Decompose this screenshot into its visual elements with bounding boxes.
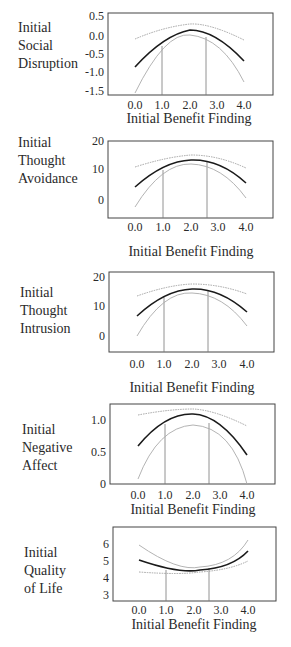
y-tick-label: 20 xyxy=(92,134,104,148)
panel-thought-avoidance: Initial Thought Avoidance 20 10 0 0.0 1.… xyxy=(18,134,273,259)
plot-frame xyxy=(108,141,273,218)
y-tick-label: -0.5 xyxy=(85,47,104,61)
y-tick-label: 0.5 xyxy=(89,9,104,23)
y-tick-label: 0 xyxy=(99,329,105,343)
ylabel-line: Thought xyxy=(20,303,68,318)
panel-social-disruption: Initial Social Disruption 0.5 0.0 -0.5 -… xyxy=(18,9,273,126)
upper-ci-curve xyxy=(137,284,247,296)
upper-ci-curve xyxy=(135,155,246,168)
ylabel-line: Intrusion xyxy=(20,321,71,336)
x-tick-label: 1.0 xyxy=(159,603,174,617)
ylabel-line: Initial xyxy=(24,545,58,560)
x-tick-label: 4.0 xyxy=(240,357,255,371)
x-tick-label: 4.0 xyxy=(240,488,255,502)
x-tick-label: 2.0 xyxy=(185,357,200,371)
x-tick-label: 4.0 xyxy=(237,98,252,112)
y-tick-label: 10 xyxy=(92,162,104,176)
plot-frame xyxy=(110,404,275,484)
ylabel-line: of Life xyxy=(24,581,62,596)
ylabel-line: Disruption xyxy=(18,56,78,71)
x-tick-label: 3.0 xyxy=(211,220,226,234)
y-tick-label: 20 xyxy=(93,270,105,284)
upper-ci-curve xyxy=(135,24,244,40)
x-axis-title: Initial Benefit Finding xyxy=(128,244,253,259)
plot-frame xyxy=(113,527,276,601)
x-tick-label: 1.0 xyxy=(156,220,171,234)
ylabel-line: Initial xyxy=(18,20,52,35)
ylabel-line: Thought xyxy=(18,153,66,168)
estimate-curve xyxy=(138,414,247,455)
x-tick-label: 2.0 xyxy=(186,488,201,502)
x-axis-title: Initial Benefit Finding xyxy=(126,111,251,126)
y-tick-label: 5 xyxy=(103,554,109,568)
x-axis-title: Initial Benefit Finding xyxy=(131,617,256,632)
panel-thought-intrusion: Initial Thought Intrusion 20 10 0 0.0 1.… xyxy=(20,270,274,395)
ylabel-line: Negative xyxy=(22,440,73,455)
panel-negative-affect: Initial Negative Affect 1.0 0.5 0 0.0 1.… xyxy=(22,404,275,517)
ylabel-line: Affect xyxy=(22,458,58,473)
x-tick-label: 4.0 xyxy=(241,603,256,617)
plot-frame xyxy=(108,13,273,95)
x-tick-label: 3.0 xyxy=(213,488,228,502)
y-tick-label: 10 xyxy=(93,299,105,313)
y-tick-label: 0.5 xyxy=(91,445,106,459)
x-tick-label: 0.0 xyxy=(130,357,145,371)
y-tick-label: 3 xyxy=(103,588,109,602)
x-axis-title: Initial Benefit Finding xyxy=(130,502,255,517)
y-tick-label: 0 xyxy=(100,477,106,491)
figure: Initial Social Disruption 0.5 0.0 -0.5 -… xyxy=(0,0,291,647)
x-tick-label: 2.0 xyxy=(183,98,198,112)
lower-ci-curve xyxy=(135,35,244,93)
x-tick-label: 0.0 xyxy=(128,220,143,234)
x-tick-label: 0.0 xyxy=(131,488,146,502)
x-tick-label: 3.0 xyxy=(214,603,229,617)
upper-ci-curve xyxy=(138,409,247,426)
y-tick-label: 1.0 xyxy=(91,413,106,427)
ylabel-line: Avoidance xyxy=(18,171,78,186)
x-tick-label: 4.0 xyxy=(239,220,254,234)
panel-quality-of-life: Initial Quality of Life 6 5 4 3 0.0 1.0 … xyxy=(24,527,276,632)
x-tick-label: 1.0 xyxy=(157,357,172,371)
y-tick-label: 0.0 xyxy=(89,29,104,43)
x-tick-label: 2.0 xyxy=(184,220,199,234)
ylabel-line: Social xyxy=(18,38,53,53)
y-tick-label: 4 xyxy=(103,571,109,585)
x-tick-label: 2.0 xyxy=(187,603,202,617)
x-tick-label: 0.0 xyxy=(128,98,143,112)
ylabel-line: Initial xyxy=(18,135,52,150)
x-tick-label: 0.0 xyxy=(132,603,147,617)
y-tick-label: 0 xyxy=(98,193,104,207)
estimate-curve xyxy=(135,30,244,67)
ylabel-line: Initial xyxy=(22,422,56,437)
ylabel-line: Initial xyxy=(20,285,54,300)
x-tick-label: 1.0 xyxy=(158,488,173,502)
ylabel-line: Quality xyxy=(24,563,66,578)
upper-ci-curve xyxy=(139,540,248,568)
x-tick-label: 1.0 xyxy=(155,98,170,112)
x-tick-label: 3.0 xyxy=(210,98,225,112)
y-tick-label: 6 xyxy=(103,537,109,551)
x-tick-label: 3.0 xyxy=(212,357,227,371)
y-tick-label: -1.0 xyxy=(85,65,104,79)
x-axis-title: Initial Benefit Finding xyxy=(129,380,254,395)
y-tick-label: -1.5 xyxy=(85,84,104,98)
